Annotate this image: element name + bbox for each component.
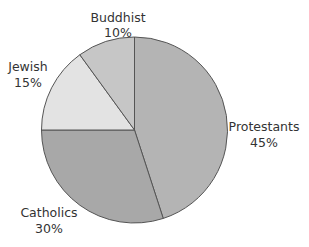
label-buddhist-pct: 10% — [104, 25, 132, 40]
pie-chart: Buddhist 10% Jewish 15% Protestants 45% … — [0, 0, 309, 247]
label-catholics: Catholics 30% — [20, 205, 77, 236]
label-jewish: Jewish 15% — [7, 59, 48, 90]
label-jewish-pct: 15% — [14, 75, 42, 90]
label-protestants: Protestants 45% — [229, 119, 300, 150]
label-catholics-pct: 30% — [35, 221, 63, 236]
label-catholics-name: Catholics — [20, 205, 77, 220]
label-protestants-pct: 45% — [250, 135, 278, 150]
label-protestants-name: Protestants — [229, 119, 300, 134]
pie-slices — [42, 37, 228, 223]
label-buddhist-name: Buddhist — [90, 10, 145, 25]
label-jewish-name: Jewish — [7, 59, 48, 74]
label-buddhist: Buddhist 10% — [90, 10, 145, 40]
